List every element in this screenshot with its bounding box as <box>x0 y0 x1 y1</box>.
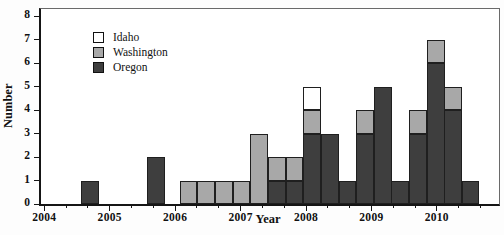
legend-item-washington: Washington <box>93 45 168 60</box>
bar-segment-oregon <box>268 181 286 205</box>
bar-segment-washington <box>197 181 215 205</box>
bar-segment-oregon <box>462 181 480 205</box>
y-axis-tick-label: 4 <box>10 102 30 114</box>
bar-segment-oregon <box>339 181 357 205</box>
legend-label-idaho: Idaho <box>113 32 139 43</box>
bar-segment-oregon <box>391 181 409 205</box>
x-axis-minor-tick <box>218 204 219 208</box>
y-axis-tick <box>34 157 41 158</box>
y-axis-tick-label: 1 <box>10 173 30 185</box>
bar-segment-washington <box>409 110 427 134</box>
bar-segment-oregon <box>409 134 427 205</box>
x-axis-tick <box>44 204 45 211</box>
bar-segment-idaho <box>303 87 321 111</box>
y-axis-tick-label: 7 <box>10 32 30 44</box>
bar-segment-washington <box>444 87 462 111</box>
y-axis-tick-label: 5 <box>10 79 30 91</box>
x-axis-minor-tick <box>349 204 350 208</box>
bar-segment-washington <box>427 40 445 64</box>
bar-segment-oregon <box>303 134 321 205</box>
x-axis-title: Year <box>39 212 497 227</box>
legend-label-oregon: Oregon <box>113 62 148 73</box>
x-axis-minor-tick <box>327 204 328 208</box>
bar-segment-washington <box>356 110 374 134</box>
plot-area: Idaho Washington Oregon 0123456782004200… <box>39 8 500 206</box>
x-axis-tick <box>306 204 307 211</box>
y-axis-tick <box>34 86 41 87</box>
legend-swatch-idaho <box>93 32 104 43</box>
bar-segment-washington <box>180 181 198 205</box>
y-axis-tick-label: 8 <box>10 8 30 20</box>
bar-segment-washington <box>303 110 321 134</box>
x-axis-minor-tick <box>131 204 132 208</box>
x-axis-minor-tick <box>153 204 154 208</box>
bar-segment-oregon <box>81 181 99 205</box>
x-axis-minor-tick <box>284 204 285 208</box>
x-axis-tick <box>436 204 437 211</box>
y-axis-tick <box>34 39 41 40</box>
x-axis-tick <box>371 204 372 211</box>
y-axis-tick <box>34 133 41 134</box>
legend-item-oregon: Oregon <box>93 60 168 75</box>
legend: Idaho Washington Oregon <box>93 30 168 75</box>
y-axis-tick <box>34 16 41 17</box>
x-axis-minor-tick <box>87 204 88 208</box>
bar-segment-oregon <box>356 134 374 205</box>
x-axis-minor-tick <box>66 204 67 208</box>
bar-segment-oregon <box>286 181 304 205</box>
legend-swatch-washington <box>93 47 104 58</box>
y-axis-tick <box>34 180 41 181</box>
bar-segment-washington <box>233 181 251 205</box>
x-axis-minor-tick <box>393 204 394 208</box>
bar-segment-washington <box>215 181 233 205</box>
bar-segment-oregon <box>374 87 392 205</box>
legend-swatch-oregon <box>93 62 104 73</box>
bar-segment-oregon <box>444 110 462 204</box>
x-axis-minor-tick <box>458 204 459 208</box>
bar-segment-oregon <box>427 63 445 204</box>
y-axis-tick-label: 6 <box>10 55 30 67</box>
bar-segment-washington <box>286 157 304 181</box>
x-axis-minor-tick <box>262 204 263 208</box>
x-axis-tick <box>175 204 176 211</box>
x-axis-minor-tick <box>196 204 197 208</box>
x-axis-minor-tick <box>480 204 481 208</box>
y-axis-tick-label: 2 <box>10 149 30 161</box>
y-axis-tick-label: 0 <box>10 196 30 208</box>
y-axis-tick-label: 3 <box>10 126 30 138</box>
chart-figure: Number Idaho Washington Oregon 012345678… <box>0 0 504 235</box>
bar-segment-oregon <box>147 157 165 204</box>
y-axis-tick <box>34 63 41 64</box>
bar-segment-washington <box>250 134 268 205</box>
bar-segment-washington <box>268 157 286 181</box>
x-axis-tick <box>240 204 241 211</box>
y-axis-tick <box>34 204 41 205</box>
x-axis-tick <box>109 204 110 211</box>
legend-item-idaho: Idaho <box>93 30 168 45</box>
legend-label-washington: Washington <box>113 47 168 58</box>
y-axis-tick <box>34 110 41 111</box>
x-axis-minor-tick <box>415 204 416 208</box>
bar-segment-oregon <box>321 134 339 205</box>
